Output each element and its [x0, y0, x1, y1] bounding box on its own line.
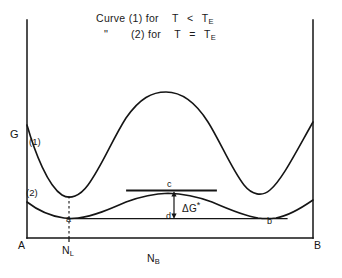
x-axis-tick-label-nl: NL — [62, 245, 74, 257]
delta-g-star-symbol: ΔG — [182, 203, 197, 214]
delta-g-star-superscript: * — [197, 200, 201, 210]
x-axis-label-base: N — [147, 252, 155, 264]
x-axis-end-label: B — [314, 240, 321, 251]
x-axis-tick-label-nl-base: N — [62, 244, 70, 256]
free-energy-diagram-figure: Curve (1) for T < TE " (2) for T = TE — [0, 0, 342, 278]
delta-g-star-arrowhead-down — [171, 214, 176, 219]
curve-1-label: (1) — [29, 137, 41, 147]
x-axis-origin-label: A — [18, 240, 25, 251]
point-label-c: c — [167, 180, 172, 189]
delta-g-star-arrow — [171, 191, 176, 219]
delta-g-star-label: ΔG* — [182, 201, 201, 214]
x-axis-tick-label-nl-subscript: L — [70, 249, 74, 258]
point-label-b: b — [267, 217, 272, 226]
point-label-d: d — [166, 212, 171, 221]
x-axis-label: NB — [147, 253, 160, 265]
curve-2-label: (2) — [26, 188, 38, 198]
point-label-a: a — [66, 215, 71, 224]
y-axis-label: G — [10, 129, 19, 140]
x-axis-label-subscript: B — [155, 257, 160, 266]
plot-canvas — [0, 0, 342, 278]
